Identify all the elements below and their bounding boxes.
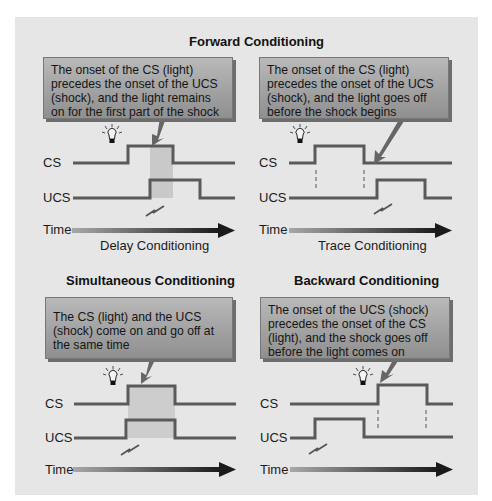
time-arrowhead: [435, 223, 452, 238]
light-bulb-icon: [102, 124, 122, 143]
shock-icon: [309, 444, 327, 454]
callout-pointer: [152, 118, 166, 146]
delay-conditioning-caption: Delay Conditioning: [100, 238, 209, 253]
light-bulb-icon: [103, 366, 123, 385]
backward-conditioning-title: Backward Conditioning: [294, 273, 439, 288]
time-arrow: [72, 228, 220, 233]
ucs-signal: [290, 419, 453, 438]
time-arrow: [289, 228, 437, 233]
trace-callout: The onset of the CS (light) precedes the…: [259, 57, 449, 119]
trace-conditioning-caption: Trace Conditioning: [318, 238, 427, 253]
overlap-shade: [128, 386, 175, 438]
trace-ucs-label: UCS: [259, 190, 286, 205]
simultaneous-time-label: Time: [45, 462, 73, 477]
time-arrowhead: [219, 462, 236, 477]
callout-pointer: [380, 358, 400, 383]
light-bulb-icon: [290, 124, 310, 143]
simultaneous-cs-label: CS: [45, 396, 63, 411]
time-arrow: [73, 467, 221, 472]
shock-icon: [146, 206, 164, 216]
time-arrowhead: [218, 223, 235, 238]
light-bulb-icon: [353, 366, 373, 385]
simultaneous-ucs-label: UCS: [45, 430, 72, 445]
backward-time-label: Time: [260, 462, 288, 477]
simultaneous-callout: The CS (light) and the UCS (shock) come …: [45, 297, 233, 359]
backward-cs-label: CS: [260, 396, 278, 411]
time-arrowhead: [436, 462, 453, 477]
backward-ucs-label: UCS: [260, 430, 287, 445]
backward-callout: The onset of the UCS (shock) precedes th…: [260, 297, 450, 359]
simultaneous-diagram: [73, 358, 236, 477]
trace-time-label: Time: [259, 222, 287, 237]
delay-diagram: [72, 118, 235, 238]
trace-cs-label: CS: [259, 155, 277, 170]
simultaneous-conditioning-title: Simultaneous Conditioning: [66, 273, 235, 288]
ucs-signal: [289, 180, 452, 198]
shock-icon: [121, 445, 139, 455]
delay-time-label: Time: [43, 222, 71, 237]
forward-conditioning-title: Forward Conditioning: [189, 34, 324, 49]
time-arrow: [290, 467, 438, 472]
cs-signal: [290, 385, 453, 404]
delay-cs-label: CS: [43, 155, 61, 170]
callout-pointer: [374, 118, 406, 164]
shock-icon: [374, 204, 392, 214]
delay-ucs-label: UCS: [43, 190, 70, 205]
delay-callout: The onset of the CS (light) precedes the…: [43, 57, 233, 119]
callout-pointer: [141, 358, 156, 384]
trace-diagram: [289, 118, 452, 238]
backward-diagram: [290, 358, 453, 477]
cs-signal: [289, 146, 452, 163]
overlap-shade: [150, 147, 173, 198]
